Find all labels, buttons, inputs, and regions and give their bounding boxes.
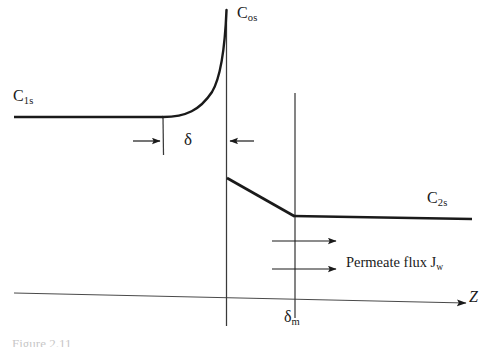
figure-container: C1s Cos C2s δ δm Permeate flux Jw Z Figu…: [0, 0, 487, 348]
permeate-flux-label: Permeate flux Jw: [346, 255, 443, 270]
permeate-concentration-label: C2s: [427, 190, 447, 206]
figure-caption-fragment: Figure 2.11: [12, 336, 71, 347]
permeate-concentration-line: [293, 216, 472, 219]
membrane-profile-line: [227, 178, 294, 216]
permeate-flux-subscript: w: [436, 261, 443, 272]
wall-concentration-label: Cos: [237, 5, 257, 21]
permeate-concentration-base: C: [427, 189, 438, 206]
concentration-polarization-diagram: [0, 0, 487, 348]
bulk-concentration-label: C1s: [13, 88, 33, 104]
bulk-concentration-subscript: 1s: [24, 95, 34, 106]
boundary-layer-start-tick: [163, 117, 164, 155]
z-axis-line: [14, 293, 466, 303]
membrane-thickness-subscript: m: [292, 316, 300, 327]
permeate-flux-text: Permeate flux J: [346, 254, 436, 270]
permeate-concentration-subscript: 2s: [438, 197, 448, 208]
polarization-curve: [163, 10, 227, 117]
boundary-layer-thickness-label: δ: [184, 131, 192, 148]
wall-concentration-base: C: [237, 4, 248, 21]
z-axis-label: Z: [469, 289, 478, 305]
membrane-thickness-label: δm: [284, 309, 300, 325]
bulk-concentration-base: C: [13, 87, 24, 104]
wall-concentration-subscript: os: [248, 12, 258, 23]
membrane-thickness-base: δ: [284, 308, 292, 325]
